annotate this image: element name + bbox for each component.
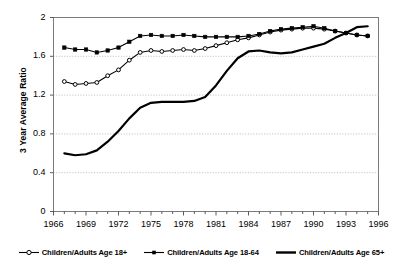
series-marker — [138, 34, 141, 37]
series-marker — [117, 46, 120, 49]
series-marker — [160, 34, 163, 37]
series-marker — [225, 41, 229, 45]
legend-label: Children/Adults Age 18+ — [42, 248, 127, 257]
series-marker — [203, 35, 206, 38]
legend-marker — [27, 250, 31, 254]
series-marker — [258, 32, 261, 35]
series-marker — [95, 51, 98, 54]
y-axis-tick-label: 1.6 — [20, 51, 46, 60]
series-marker — [247, 34, 250, 37]
y-axis-tick-label: 1.2 — [20, 90, 46, 99]
chart-plot-area — [0, 0, 402, 271]
series-marker — [214, 35, 217, 38]
x-axis-tick-label: 1996 — [359, 220, 399, 229]
series-marker — [106, 74, 110, 78]
y-axis-tick-label: 0.8 — [20, 129, 46, 138]
series-marker — [149, 33, 152, 36]
chart-figure: 3 Year Average Ratio Children/Adults Age… — [0, 0, 402, 271]
y-axis-tick-label: 0 — [20, 207, 46, 216]
legend-item[interactable]: Children/Adults Age 18+ — [18, 248, 127, 257]
series-marker — [214, 44, 218, 48]
legend-swatch-none-icon — [275, 248, 297, 257]
legend-label: Children/Adults Age 18-64 — [167, 248, 259, 257]
legend-marker — [152, 251, 156, 255]
series-marker — [63, 46, 66, 49]
series-marker — [225, 35, 228, 38]
series-marker — [138, 51, 142, 55]
series-marker — [312, 25, 315, 28]
series-marker — [62, 80, 66, 84]
series-marker — [333, 29, 336, 32]
series-marker — [149, 49, 153, 53]
legend-item[interactable]: Children/Adults Age 65+ — [275, 248, 384, 257]
series-marker — [203, 47, 207, 51]
series-marker — [127, 58, 131, 62]
series-marker — [279, 27, 282, 30]
series-marker — [128, 40, 131, 43]
series-marker — [73, 83, 77, 87]
series-marker — [84, 48, 87, 51]
series-marker — [192, 49, 196, 53]
series-marker — [366, 34, 369, 37]
series-marker — [171, 34, 174, 37]
series-marker — [73, 48, 76, 51]
series-marker — [84, 82, 88, 86]
series-marker — [106, 49, 109, 52]
legend-swatch-filled-square-icon — [143, 248, 165, 257]
series-marker — [355, 33, 358, 36]
series-marker — [236, 35, 239, 38]
series-marker — [171, 49, 175, 53]
series-marker — [290, 26, 293, 29]
series-marker — [193, 34, 196, 37]
legend-label: Children/Adults Age 65+ — [299, 248, 384, 257]
y-axis-tick-label: 2 — [20, 13, 46, 22]
series-marker — [323, 26, 326, 29]
legend-item[interactable]: Children/Adults Age 18-64 — [143, 248, 259, 257]
series-marker — [182, 48, 186, 52]
series-marker — [95, 81, 99, 85]
series-marker — [182, 33, 185, 36]
chart-legend: Children/Adults Age 18+Children/Adults A… — [0, 248, 402, 257]
legend-swatch-open-circle-icon — [18, 248, 40, 257]
series-marker — [301, 26, 304, 29]
series-marker — [268, 29, 271, 32]
series-marker — [160, 50, 164, 54]
series-marker — [117, 68, 121, 72]
y-axis-tick-label: 0.4 — [20, 168, 46, 177]
